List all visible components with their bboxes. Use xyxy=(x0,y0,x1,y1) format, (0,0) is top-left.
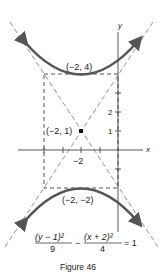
equation-term1-denominator: 9 xyxy=(50,244,55,254)
equation-term1-numerator: (y − 1)² xyxy=(35,232,65,242)
y-tick-label-1: 1 xyxy=(108,127,113,136)
equation-rhs: = 1 xyxy=(124,238,137,248)
center-label: (−2, 1) xyxy=(46,126,72,136)
lower-branch xyxy=(24,189,138,223)
center-point xyxy=(79,129,83,133)
x-tick-label: −2 xyxy=(73,156,83,166)
bottom-vertex-label: (−2, −2) xyxy=(62,195,94,205)
hyperbola-figure: y x −2 1 2 (−2, 4) (−2, 1) (−2, −2) (y −… xyxy=(0,0,162,274)
equation: (y − 1)² 9 − (x + 2)² 4 = 1 xyxy=(35,232,137,254)
figure-caption: Figure 46 xyxy=(60,262,96,272)
equation-term2-denominator: 4 xyxy=(100,244,105,254)
equation-minus: − xyxy=(75,238,80,248)
top-vertex-label: (−2, 4) xyxy=(66,62,92,72)
x-axis-label: x xyxy=(145,145,151,154)
equation-term2-numerator: (x + 2)² xyxy=(84,232,114,242)
y-axis-label: y xyxy=(117,21,123,30)
y-tick-label-2: 2 xyxy=(108,108,113,117)
